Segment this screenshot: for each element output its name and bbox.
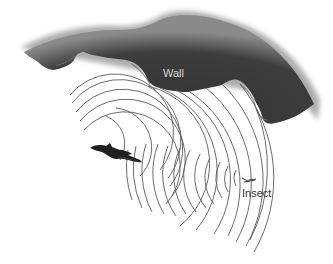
diagram-canvas bbox=[0, 0, 333, 264]
outgoing-waves bbox=[70, 74, 274, 252]
wall-label: Wall bbox=[163, 68, 184, 79]
insect-label: Insect bbox=[242, 188, 271, 199]
insect-icon bbox=[242, 178, 256, 182]
echolocation-diagram: Wall Insect bbox=[0, 0, 333, 264]
